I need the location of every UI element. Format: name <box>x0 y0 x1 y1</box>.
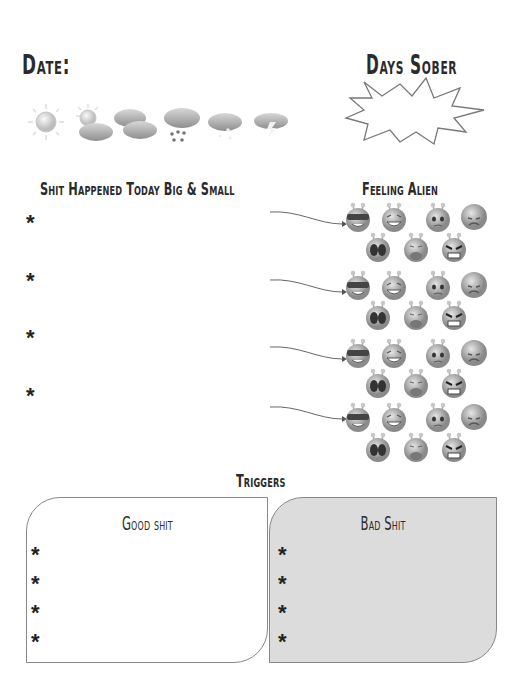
sad-alien-icon[interactable] <box>460 336 488 366</box>
date-label: Date: <box>22 50 70 80</box>
arrow-icon <box>268 276 348 300</box>
laughing-alien-icon[interactable] <box>380 202 408 232</box>
shocked-alien-icon[interactable] <box>364 300 392 330</box>
good-trigger-bullet-1[interactable]: * <box>31 544 40 573</box>
bad-trigger-bullet-4[interactable]: * <box>278 631 287 660</box>
event-bullet-2[interactable]: * <box>26 270 35 292</box>
crying-alien-icon[interactable] <box>402 300 430 330</box>
sad-alien-icon[interactable] <box>460 400 488 430</box>
cool-alien-icon[interactable] <box>344 270 372 300</box>
good-trigger-bullet-4[interactable]: * <box>31 631 40 660</box>
crying-alien-icon[interactable] <box>402 232 430 262</box>
event-bullet-3[interactable]: * <box>26 327 35 349</box>
good-triggers-list: * * * * <box>31 544 40 660</box>
arrow-icon <box>268 208 348 232</box>
event-bullet-4[interactable]: * <box>26 385 35 407</box>
good-triggers-box[interactable]: Good shit * * * * <box>26 497 268 663</box>
bad-triggers-box[interactable]: Bad Shit * * * * <box>269 497 497 663</box>
angry-alien-icon[interactable] <box>440 432 468 462</box>
bad-trigger-bullet-2[interactable]: * <box>278 573 287 602</box>
good-trigger-bullet-3[interactable]: * <box>31 602 40 631</box>
worried-alien-icon[interactable] <box>424 202 452 232</box>
laughing-alien-icon[interactable] <box>380 338 408 368</box>
worried-alien-icon[interactable] <box>424 338 452 368</box>
worried-alien-icon[interactable] <box>424 402 452 432</box>
sad-alien-icon[interactable] <box>460 268 488 298</box>
sad-alien-icon[interactable] <box>460 200 488 230</box>
good-triggers-title: Good shit <box>27 512 267 534</box>
events-title: Shit Happened Today Big & Small <box>40 178 235 199</box>
bad-triggers-title: Bad Shit <box>270 512 496 534</box>
weather-row <box>26 100 296 144</box>
cool-alien-icon[interactable] <box>344 338 372 368</box>
thunderstorm-icon[interactable] <box>252 110 290 140</box>
triggers-title: Triggers <box>236 470 285 491</box>
good-trigger-bullet-2[interactable]: * <box>31 573 40 602</box>
feelings-title: Feeling Alien <box>362 178 438 199</box>
worried-alien-icon[interactable] <box>424 270 452 300</box>
shocked-alien-icon[interactable] <box>364 232 392 262</box>
arrow-icon <box>268 403 348 427</box>
bad-trigger-bullet-3[interactable]: * <box>278 602 287 631</box>
angry-alien-icon[interactable] <box>440 368 468 398</box>
snow-icon[interactable] <box>206 110 244 142</box>
angry-alien-icon[interactable] <box>440 232 468 262</box>
alien-face-grid-1 <box>344 202 494 264</box>
crying-alien-icon[interactable] <box>402 368 430 398</box>
alien-face-grid-2 <box>344 270 494 332</box>
days-sober-starburst[interactable] <box>342 76 486 146</box>
cool-alien-icon[interactable] <box>344 202 372 232</box>
partly-cloudy-icon[interactable] <box>72 102 116 144</box>
alien-face-grid-4 <box>344 402 494 464</box>
shocked-alien-icon[interactable] <box>364 368 392 398</box>
sunny-icon[interactable] <box>26 102 66 142</box>
shocked-alien-icon[interactable] <box>364 432 392 462</box>
alien-face-grid-3 <box>344 338 494 400</box>
crying-alien-icon[interactable] <box>402 432 430 462</box>
laughing-alien-icon[interactable] <box>380 270 408 300</box>
rain-icon[interactable] <box>162 106 202 144</box>
bad-trigger-bullet-1[interactable]: * <box>278 544 287 573</box>
cloudy-icon[interactable] <box>112 106 158 142</box>
angry-alien-icon[interactable] <box>440 300 468 330</box>
laughing-alien-icon[interactable] <box>380 402 408 432</box>
bad-triggers-list: * * * * <box>278 544 287 660</box>
arrow-icon <box>268 343 348 367</box>
cool-alien-icon[interactable] <box>344 402 372 432</box>
event-bullet-1[interactable]: * <box>26 212 35 234</box>
